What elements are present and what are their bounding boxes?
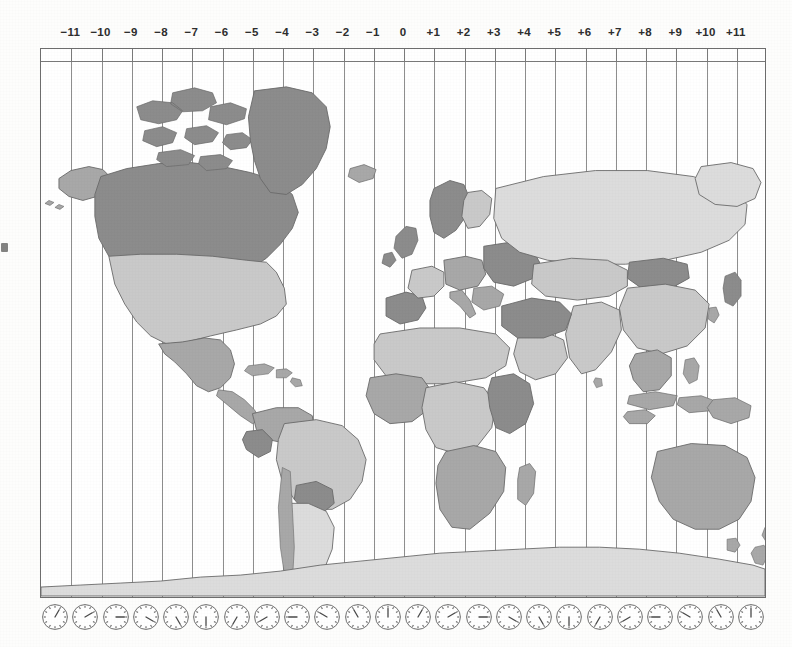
utc-offset-label: −8 (154, 26, 168, 38)
region-central-africa (422, 382, 496, 454)
clock-row (40, 602, 766, 644)
utc-offset-label: +4 (517, 26, 531, 38)
region-southeast-asia (629, 350, 671, 392)
utc-offset-label: +7 (608, 26, 622, 38)
utc-offset-label: +5 (547, 26, 561, 38)
utc-offset-label: −4 (275, 26, 289, 38)
region-france (408, 266, 444, 298)
clock-face (706, 602, 736, 632)
utc-offset-label: −1 (366, 26, 380, 38)
region-greenland (248, 87, 330, 195)
clock-face (161, 602, 191, 632)
clock-face (464, 602, 494, 632)
region-madagascar (518, 463, 536, 505)
region-west-africa (366, 374, 432, 424)
region-mexico (159, 338, 235, 392)
region-italy-balkans (450, 286, 504, 318)
clock-face (131, 602, 161, 632)
utc-offset-label: +8 (638, 26, 652, 38)
region-southern-africa (436, 446, 506, 530)
clock-face (70, 602, 100, 632)
utc-offset-label: −2 (336, 26, 350, 38)
utc-offset-label: −3 (305, 26, 319, 38)
region-finland-baltic (462, 190, 492, 228)
region-iceland (348, 165, 376, 183)
utc-offset-label: +3 (487, 26, 501, 38)
clock-face (675, 602, 705, 632)
region-sri-lanka (593, 378, 602, 388)
region-united-states (109, 254, 287, 344)
clock-face (554, 602, 584, 632)
world-land-svg (41, 49, 765, 597)
utc-offset-label: +11 (726, 26, 745, 38)
clock-face (373, 602, 403, 632)
clock-face (524, 602, 554, 632)
clock-face (585, 602, 615, 632)
clock-face (312, 602, 342, 632)
region-turkey-middle-east (502, 298, 572, 338)
clock-face (252, 602, 282, 632)
clock-face (736, 602, 766, 632)
region-papua-new-guinea (707, 398, 751, 424)
utc-offset-scale: −11−10−9−8−7−6−5−4−3−2−10+1+2+3+4+5+6+7+… (40, 26, 766, 44)
scan-artifact (1, 243, 8, 252)
time-zone-map-page: −11−10−9−8−7−6−5−4−3−2−10+1+2+3+4+5+6+7+… (0, 0, 792, 647)
region-canadian-arctic (137, 88, 253, 171)
clock-face (282, 602, 312, 632)
region-east-africa (488, 374, 534, 434)
region-china (619, 284, 709, 354)
utc-offset-label: 0 (400, 26, 407, 38)
utc-offset-label: +9 (668, 26, 682, 38)
clock-face (645, 602, 675, 632)
landmass-layer (41, 49, 765, 597)
clock-face (433, 602, 463, 632)
utc-offset-label: +1 (426, 26, 440, 38)
region-central-europe (444, 256, 486, 290)
region-central-asia (532, 258, 628, 300)
region-tasmania (727, 538, 740, 552)
region-india (566, 302, 622, 374)
region-new-zealand (751, 523, 765, 565)
map-frame (40, 48, 766, 598)
utc-offset-label: −6 (215, 26, 229, 38)
region-philippines (683, 358, 699, 384)
region-antarctica (41, 547, 765, 596)
clock-face (494, 602, 524, 632)
clock-face (343, 602, 373, 632)
clock-face (222, 602, 252, 632)
region-british-isles (382, 226, 418, 267)
region-caribbean-islands (244, 364, 302, 387)
region-arabian-peninsula (514, 332, 568, 380)
clock-face (40, 602, 70, 632)
utc-offset-label: −11 (61, 26, 80, 38)
utc-offset-label: +2 (457, 26, 471, 38)
clock-face (101, 602, 131, 632)
clock-face (191, 602, 221, 632)
utc-offset-label: +6 (578, 26, 592, 38)
region-indonesia (623, 392, 717, 424)
clock-face (403, 602, 433, 632)
region-korea (708, 307, 719, 323)
region-japan (723, 272, 741, 306)
region-aleutian-islands (45, 200, 64, 209)
utc-offset-label: +10 (695, 26, 715, 38)
region-mongolia (627, 258, 689, 288)
region-australia (651, 444, 755, 530)
utc-offset-label: −10 (90, 26, 110, 38)
utc-offset-label: −5 (245, 26, 259, 38)
utc-offset-label: −9 (124, 26, 138, 38)
clock-face (615, 602, 645, 632)
utc-offset-label: −7 (184, 26, 198, 38)
